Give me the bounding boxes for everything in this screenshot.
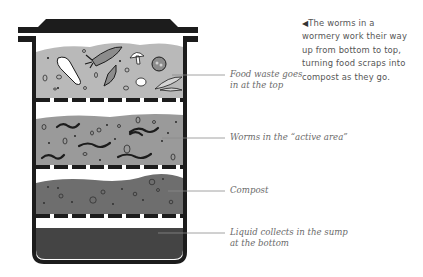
caption-line: turning food scraps into — [302, 57, 423, 70]
caption-line: up from bottom to top, — [302, 44, 423, 57]
food-waste-layer — [36, 43, 183, 98]
label-line: Food waste goes — [230, 69, 302, 80]
label-sump: Liquid collects in the sump at the botto… — [230, 227, 348, 249]
label-line: Compost — [230, 185, 268, 196]
caption-text: The worms in a — [308, 18, 374, 28]
compost-layer — [36, 174, 183, 214]
egg-icon — [136, 78, 146, 86]
container-lip — [18, 36, 198, 42]
caption-line: wormery work their way — [302, 30, 423, 43]
worms-layer — [36, 114, 183, 165]
caption-line: ◀The worms in a — [302, 17, 423, 30]
label-compost: Compost — [230, 185, 268, 196]
label-line: Worms in the “active area” — [230, 132, 348, 143]
label-line: Liquid collects in the sump — [230, 227, 348, 238]
label-food-waste: Food waste goes in at the top — [230, 69, 302, 91]
label-line: in at the top — [230, 80, 302, 91]
caption-line: compost as they go. — [302, 71, 423, 84]
caption: ◀The worms in a wormery work their way u… — [302, 17, 423, 84]
label-worms: Worms in the “active area” — [230, 132, 348, 143]
lid — [18, 19, 198, 33]
tomato-slice-icon — [152, 57, 166, 71]
label-line: at the bottom — [230, 238, 348, 249]
